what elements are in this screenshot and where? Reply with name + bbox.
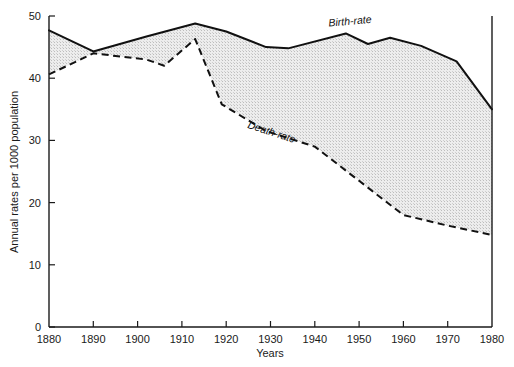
y-tick-label-40: 40 [29, 72, 41, 84]
x-tick-label-1970: 1970 [435, 333, 459, 345]
x-tick-label-1940: 1940 [303, 333, 327, 345]
x-tick-label-1880: 1880 [37, 333, 61, 345]
x-axis-title: Years [256, 347, 284, 359]
x-tick-label-1960: 1960 [391, 333, 415, 345]
x-tick-label-1900: 1900 [125, 333, 149, 345]
y-tick-label-30: 30 [29, 134, 41, 146]
y-axis-title: Annual rates per 1000 population [8, 91, 20, 253]
y-tick-label-50: 50 [29, 10, 41, 22]
x-tick-label-1920: 1920 [214, 333, 238, 345]
birth-death-rate-line-chart: 01020304050 1880189019001910192019301940… [0, 0, 514, 367]
y-tick-label-20: 20 [29, 197, 41, 209]
x-tick-label-1890: 1890 [81, 333, 105, 345]
x-tick-label-1950: 1950 [347, 333, 371, 345]
chart-container: 01020304050 1880189019001910192019301940… [0, 0, 514, 367]
x-tick-label-1910: 1910 [170, 333, 194, 345]
x-tick-label-1930: 1930 [258, 333, 282, 345]
x-tick-label-1980: 1980 [480, 333, 504, 345]
y-tick-label-10: 10 [29, 259, 41, 271]
y-tick-label-0: 0 [35, 321, 41, 333]
